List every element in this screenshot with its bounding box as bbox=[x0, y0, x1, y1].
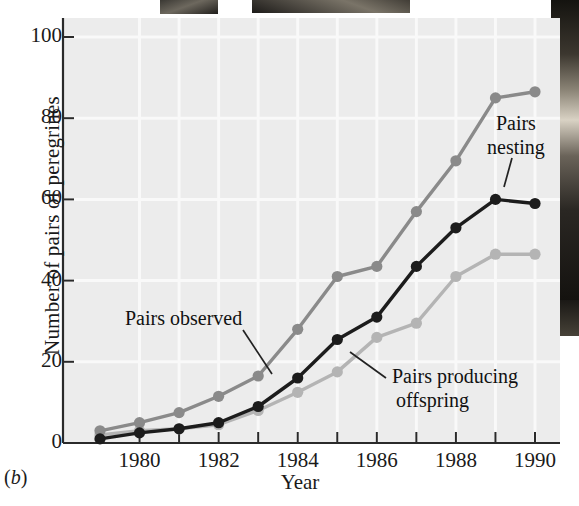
data-point-pairs-producing-offspring bbox=[411, 318, 422, 329]
y-tick-label: 80 bbox=[16, 104, 62, 129]
data-point-pairs-observed bbox=[332, 271, 343, 282]
data-point-pairs-nesting bbox=[529, 198, 540, 209]
data-point-pairs-producing-offspring bbox=[371, 332, 382, 343]
data-point-pairs-observed bbox=[450, 155, 461, 166]
data-point-pairs-producing-offspring bbox=[490, 249, 501, 260]
data-point-pairs-nesting bbox=[213, 417, 224, 428]
x-tick-label: 1980 bbox=[105, 448, 175, 473]
data-point-pairs-nesting bbox=[134, 427, 145, 438]
data-point-pairs-observed bbox=[411, 206, 422, 217]
panel-letter: b bbox=[11, 466, 21, 488]
y-tick-label: 40 bbox=[16, 267, 62, 292]
data-point-pairs-observed bbox=[371, 261, 382, 272]
data-point-pairs-observed bbox=[253, 370, 264, 381]
data-point-pairs-nesting bbox=[292, 372, 303, 383]
data-point-pairs-nesting bbox=[411, 261, 422, 272]
data-point-pairs-nesting bbox=[450, 222, 461, 233]
x-axis-title: Year bbox=[200, 470, 400, 495]
figure-root: Number of pairs of peregrines 0204060801… bbox=[0, 0, 579, 506]
data-point-pairs-producing-offspring bbox=[529, 249, 540, 260]
data-point-pairs-observed bbox=[213, 391, 224, 402]
annotation-pairs-offspring-line2: offspring bbox=[396, 389, 518, 413]
data-point-pairs-producing-offspring bbox=[292, 387, 303, 398]
data-point-pairs-nesting bbox=[371, 312, 382, 323]
data-point-pairs-producing-offspring bbox=[450, 271, 461, 282]
annotation-pairs-offspring-line1: Pairs producing bbox=[392, 365, 518, 389]
y-tick-label: 60 bbox=[16, 185, 62, 210]
data-point-pairs-observed bbox=[134, 417, 145, 428]
data-point-pairs-nesting bbox=[94, 433, 105, 444]
y-tick-label: 0 bbox=[16, 429, 62, 454]
annotation-pairs-nesting-line1: Pairs bbox=[487, 112, 545, 136]
x-tick-label: 1990 bbox=[500, 448, 570, 473]
data-point-pairs-observed bbox=[490, 92, 501, 103]
data-point-pairs-observed bbox=[292, 324, 303, 335]
data-point-pairs-observed bbox=[529, 86, 540, 97]
y-tick-label: 20 bbox=[16, 348, 62, 373]
annotation-pairs-offspring: Pairs producing offspring bbox=[392, 365, 518, 412]
data-point-pairs-nesting bbox=[332, 334, 343, 345]
data-point-pairs-nesting bbox=[253, 401, 264, 412]
data-point-pairs-observed bbox=[174, 407, 185, 418]
annotation-pairs-nesting-line2: nesting bbox=[487, 136, 545, 160]
annotation-pairs-observed: Pairs observed bbox=[125, 307, 242, 331]
panel-label: (b) bbox=[4, 466, 27, 489]
data-point-pairs-nesting bbox=[490, 194, 501, 205]
data-point-pairs-nesting bbox=[174, 423, 185, 434]
x-tick-label: 1988 bbox=[421, 448, 491, 473]
data-point-pairs-producing-offspring bbox=[332, 366, 343, 377]
annotation-pairs-nesting: Pairs nesting bbox=[487, 112, 545, 159]
line-chart bbox=[0, 0, 579, 506]
y-tick-label: 100 bbox=[16, 23, 62, 48]
y-tick-labels: 020406080100 bbox=[10, 0, 62, 470]
